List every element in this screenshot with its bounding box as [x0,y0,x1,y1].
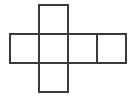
net-square-bottom [39,63,68,92]
net-square-center [39,34,68,63]
net-square-top [39,5,68,34]
net-square-far-right [97,34,126,63]
cube-net-diagram [0,0,135,97]
net-square-left [10,34,39,63]
net-square-right [68,34,97,63]
